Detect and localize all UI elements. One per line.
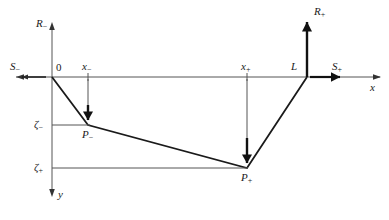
span-end-label: L [291,61,297,72]
deflected-beam-curve [52,77,307,168]
load-left-position-label: x− [82,61,91,74]
reaction-right-label: R+ [314,6,325,19]
diagram-canvas [0,0,389,220]
point-right-label: P+ [241,172,252,185]
shear-right-label: S+ [332,61,342,74]
x-axis-label: x [370,82,375,93]
point-left-label: P− [82,129,93,142]
deflection-right-label: ζ+ [34,162,43,175]
y-axis-label: y [58,189,63,200]
y-axis [49,22,55,197]
deflection-left-label: ζ− [34,119,43,132]
beam-loading-diagram: R− R+ S− S+ 0 x− x+ L x y ζ− ζ+ P− P+ [0,0,389,220]
shear-left-label: S− [10,61,20,74]
reaction-left-label: R− [36,18,47,31]
origin-label: 0 [56,62,62,73]
load-right-position-label: x+ [241,61,250,74]
